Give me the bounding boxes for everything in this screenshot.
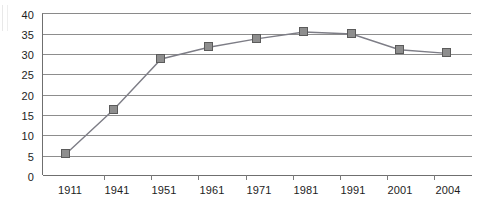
y-axis-tick-label: 30 xyxy=(0,50,34,61)
x-axis-tick-mark xyxy=(293,175,294,180)
y-axis-tick-label: 15 xyxy=(0,111,34,122)
data-point-marker xyxy=(61,149,70,158)
data-point-marker xyxy=(395,45,404,54)
y-axis-tick-label: 10 xyxy=(0,131,34,142)
y-axis-tick-label: 0 xyxy=(0,172,34,183)
x-axis-tick-mark xyxy=(340,175,341,180)
gridline-15 xyxy=(43,115,472,116)
gridline-5 xyxy=(43,156,472,157)
data-point-marker xyxy=(156,54,165,63)
data-point-marker xyxy=(204,42,213,51)
data-point-marker xyxy=(252,34,261,43)
x-axis-tick-mark xyxy=(151,175,152,180)
x-axis-tick-mark xyxy=(198,175,199,180)
y-axis-tick-label: 35 xyxy=(0,30,34,41)
x-axis-tick-mark xyxy=(104,175,105,180)
data-point-marker xyxy=(299,27,308,36)
gridline-30 xyxy=(43,54,472,55)
x-axis-tick-mark xyxy=(246,175,247,180)
data-point-marker xyxy=(442,48,451,57)
x-axis-tick-mark xyxy=(387,175,388,180)
y-axis-tick-label: 40 xyxy=(0,10,34,21)
x-axis-tick-mark xyxy=(434,175,435,180)
x-axis-baseline xyxy=(43,175,472,176)
line-chart-figure: 40 35 30 25 20 15 10 5 0 1911 1941 1951 … xyxy=(0,0,493,209)
gridline-10 xyxy=(43,135,472,136)
x-axis-tick-label: 2004 xyxy=(420,185,476,196)
gridline-20 xyxy=(43,95,472,96)
y-axis-tick-label: 5 xyxy=(0,152,34,163)
gridline-25 xyxy=(43,74,472,75)
y-axis-tick-label: 25 xyxy=(0,70,34,81)
data-point-marker xyxy=(109,105,118,114)
y-axis-tick-label: 20 xyxy=(0,91,34,102)
data-point-marker xyxy=(347,29,356,38)
